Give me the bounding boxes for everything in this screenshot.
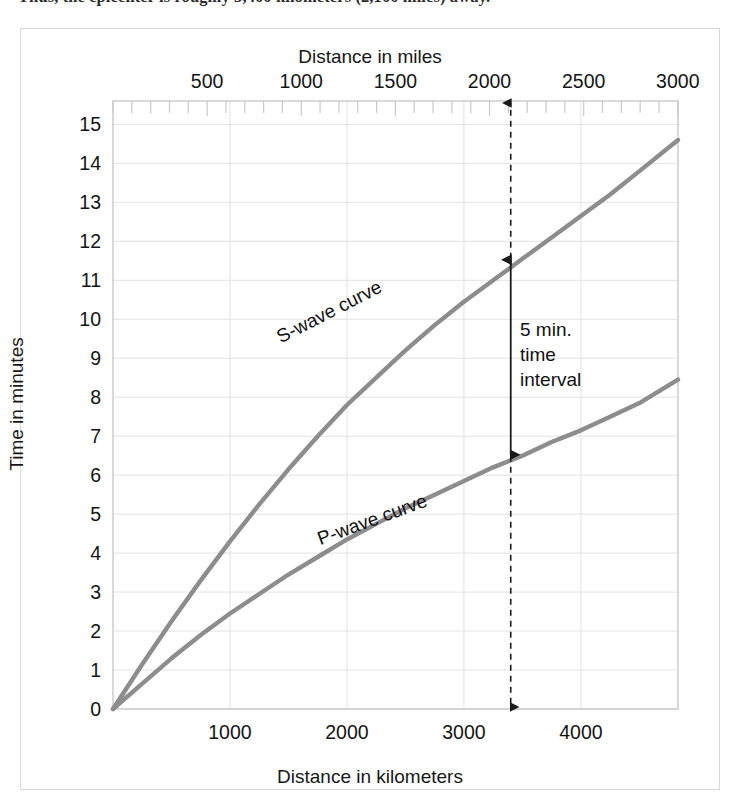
- y-tick-label: 8: [61, 386, 101, 409]
- y-axis-title: Time in minutes: [6, 337, 28, 470]
- y-tick-label: 13: [61, 191, 101, 214]
- figure-panel: [20, 28, 720, 790]
- y-tick-label: 4: [61, 542, 101, 565]
- top-tick-label: 1500: [374, 70, 417, 93]
- y-tick-label: 11: [61, 269, 101, 292]
- y-tick-label: 9: [61, 347, 101, 370]
- caption-text: Thus, the epicenter is roughly 3,400 kil…: [18, 0, 490, 7]
- y-tick-label: 12: [61, 230, 101, 253]
- y-tick-label: 15: [61, 113, 101, 136]
- time-interval-annotation: 5 min. time interval: [520, 317, 581, 392]
- bottom-axis-title: Distance in kilometers: [0, 766, 740, 788]
- y-tick-label: 14: [61, 152, 101, 175]
- y-tick-label: 0: [61, 698, 101, 721]
- top-tick-label: 1000: [280, 70, 323, 93]
- y-tick-label: 6: [61, 464, 101, 487]
- time-interval-line-1: 5 min.: [520, 317, 581, 342]
- y-tick-label: 3: [61, 581, 101, 604]
- top-tick-label: 500: [191, 70, 224, 93]
- y-tick-label: 1: [61, 659, 101, 682]
- top-axis-title: Distance in miles: [0, 46, 740, 68]
- caption-strip: Thus, the epicenter is roughly 3,400 kil…: [0, 0, 740, 14]
- bottom-tick-label: 4000: [559, 721, 602, 744]
- top-tick-label: 2500: [562, 70, 605, 93]
- y-tick-label: 10: [61, 308, 101, 331]
- bottom-tick-label: 3000: [442, 721, 485, 744]
- y-tick-label: 5: [61, 503, 101, 526]
- bottom-tick-label: 1000: [208, 721, 251, 744]
- time-interval-line-3: interval: [520, 367, 581, 392]
- time-interval-line-2: time: [520, 342, 581, 367]
- top-tick-label: 2000: [468, 70, 511, 93]
- top-tick-label: 3000: [656, 70, 699, 93]
- y-tick-label: 2: [61, 620, 101, 643]
- y-tick-label: 7: [61, 425, 101, 448]
- bottom-tick-label: 2000: [325, 721, 368, 744]
